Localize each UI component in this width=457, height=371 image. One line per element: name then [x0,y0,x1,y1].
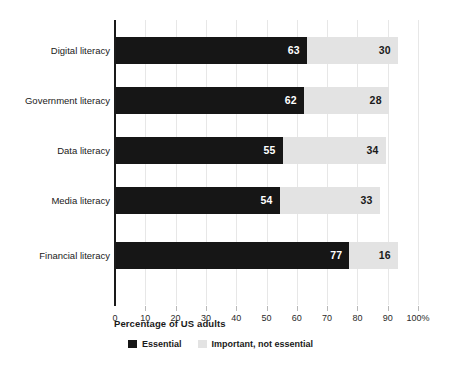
category-label: Data literacy [6,146,110,156]
bar-segment-essential: 62 [116,87,304,114]
legend-item[interactable]: Important, not essential [198,339,314,349]
chart-legend: EssentialImportant, not essential [128,339,313,349]
bar-value-label: 16 [379,250,398,261]
category-label: Digital literacy [6,46,110,56]
x-tick-label: 90 [383,313,393,323]
bar-value-label: 62 [285,95,304,106]
x-tick-label: 70 [322,313,332,323]
x-tick-label: 50 [261,313,271,323]
bar-value-label: 34 [367,145,386,156]
legend-item[interactable]: Essential [128,339,182,349]
category-label: Financial literacy [6,251,110,261]
category-label: Media literacy [6,196,110,206]
bar-segment-important: 30 [307,37,398,64]
legend-swatch-icon [198,340,207,348]
x-axis-title: Percentage of US adults [114,318,226,329]
bar-row: 6330 [116,37,398,64]
bar-value-label: 33 [361,195,380,206]
gridline-100 [418,20,419,305]
bar-row: 5433 [116,187,380,214]
bar-row: 5534 [116,137,386,164]
bar-row: 7716 [116,242,398,269]
x-tick-label: 80 [352,313,362,323]
bar-segment-essential: 63 [116,37,307,64]
bar-row: 6228 [116,87,389,114]
bar-segment-important: 16 [349,242,397,269]
category-label: Government literacy [6,96,110,106]
x-tick-label: 60 [292,313,302,323]
bar-value-label: 30 [379,45,398,56]
legend-label: Important, not essential [212,339,314,349]
legend-swatch-icon [128,340,137,348]
x-tick-label: 100% [406,313,429,323]
legend-label: Essential [142,339,182,349]
bar-segment-important: 33 [280,187,380,214]
x-tick-label: 40 [231,313,241,323]
bar-value-label: 55 [264,145,283,156]
bar-value-label: 28 [370,95,389,106]
bar-segment-important: 28 [304,87,389,114]
bar-segment-important: 34 [283,137,386,164]
bar-segment-essential: 54 [116,187,280,214]
bar-segment-essential: 77 [116,242,349,269]
bar-segment-essential: 55 [116,137,283,164]
bar-value-label: 77 [330,250,349,261]
category-axis-labels: Digital literacyGovernment literacyData … [0,20,110,305]
bar-value-label: 54 [261,195,280,206]
bar-value-label: 63 [288,45,307,56]
stacked-bar-chart: Digital literacyGovernment literacyData … [0,0,457,371]
